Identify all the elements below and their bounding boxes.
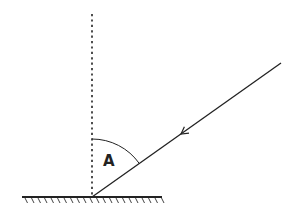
background [0,0,296,219]
angle-label: A [103,152,115,170]
reflection-diagram: A [0,0,296,219]
